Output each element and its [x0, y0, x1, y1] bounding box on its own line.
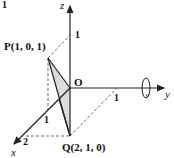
- coordinate-diagram: 1 z y x 1 1 1 2: [0, 0, 174, 158]
- x-axis-label: x: [10, 146, 16, 158]
- z-axis-label: z: [59, 0, 65, 11]
- point-P-label: P(1, 0, 1): [4, 40, 46, 53]
- fragment-text: 1: [2, 0, 7, 10]
- y-tick-1: 1: [114, 92, 119, 103]
- y-axis-label: y: [164, 88, 170, 100]
- x-tick-2: 2: [23, 136, 28, 147]
- x-tick-1: 1: [44, 114, 49, 125]
- point-Q-label: Q(2, 1, 0): [62, 141, 106, 154]
- origin-label: O: [74, 76, 83, 88]
- z-tick-1: 1: [75, 29, 80, 40]
